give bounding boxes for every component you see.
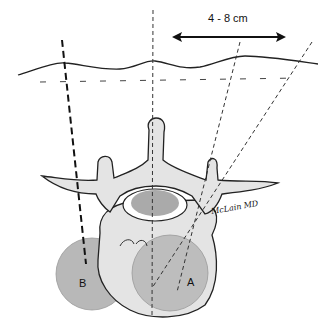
dural-sac (131, 190, 179, 216)
fascia-dashed-line (40, 78, 300, 82)
distance-label: 4 - 8 cm (208, 12, 248, 24)
approach-a-line-2 (152, 42, 312, 288)
distance-arrow (172, 32, 286, 42)
vertebra-diagram: 4 - 8 cm A B McLain MD (0, 0, 333, 332)
skin-surface-line (18, 56, 318, 75)
circle-a (132, 235, 208, 311)
circle-b-label: B (79, 277, 86, 289)
diagram-drawing (0, 0, 333, 332)
approach-b-line (62, 40, 86, 264)
circle-a-label: A (187, 276, 194, 288)
